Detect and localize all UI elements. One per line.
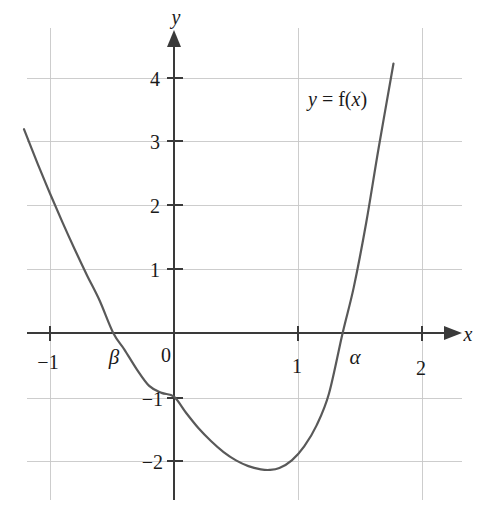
curve-label-eq: = xyxy=(317,88,338,110)
y-tick-labels: 4 3 2 1 −1 −2 xyxy=(142,68,163,473)
curve-label-y: y xyxy=(306,88,317,111)
figure-container: 4 3 2 1 −1 −2 −1 0 1 2 x y β α y = f(x) xyxy=(0,0,489,506)
x-tick-label-2: 2 xyxy=(416,357,426,379)
y-axis-arrowhead xyxy=(167,30,181,47)
x-tick-labels: −1 0 1 2 xyxy=(37,344,426,379)
root-label-alpha: α xyxy=(349,345,361,369)
x-tick-label-minus-1: −1 xyxy=(37,351,58,373)
axes xyxy=(27,30,462,500)
curve-label-close: ) xyxy=(360,88,367,111)
y-tick-label-1: 1 xyxy=(150,259,160,281)
function-graph: 4 3 2 1 −1 −2 −1 0 1 2 x y β α y = f(x) xyxy=(0,0,489,506)
curve-label-fopen: f( xyxy=(338,88,352,111)
x-axis-label: x xyxy=(463,323,473,345)
x-tick-label-0: 0 xyxy=(161,344,171,366)
y-axis-label: y xyxy=(170,6,181,29)
horizontal-gridlines xyxy=(27,78,462,461)
root-label-beta: β xyxy=(108,345,120,369)
curve-label: y = f(x) xyxy=(306,88,367,111)
y-tick-label-3: 3 xyxy=(150,131,160,153)
y-tick-label-minus-1: −1 xyxy=(142,388,163,410)
curve-label-arg: x xyxy=(351,88,361,110)
function-curve xyxy=(24,64,394,470)
x-tick-label-1: 1 xyxy=(292,355,302,377)
x-axis-arrowhead xyxy=(444,326,462,340)
y-tick-label-4: 4 xyxy=(150,68,160,90)
y-tick-label-2: 2 xyxy=(150,195,160,217)
y-tick-label-minus-2: −2 xyxy=(142,451,163,473)
curve-group xyxy=(24,64,394,470)
